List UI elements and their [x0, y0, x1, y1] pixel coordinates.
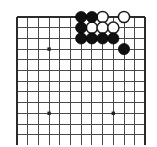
white-stone[interactable]: [118, 11, 129, 22]
black-stone[interactable]: [97, 33, 108, 44]
star-point: [47, 112, 50, 115]
black-stone[interactable]: [76, 22, 87, 33]
black-stone[interactable]: [76, 33, 87, 44]
go-board-diagram: [0, 0, 157, 147]
white-stone[interactable]: [97, 11, 108, 22]
black-stone[interactable]: [86, 11, 97, 22]
white-stone[interactable]: [86, 22, 97, 33]
black-stone[interactable]: [108, 33, 119, 44]
star-point: [47, 47, 50, 50]
black-stone[interactable]: [76, 11, 87, 22]
go-board-svg[interactable]: [0, 0, 157, 147]
black-stone[interactable]: [86, 33, 97, 44]
black-stone[interactable]: [118, 44, 129, 55]
star-point: [112, 112, 115, 115]
white-stone[interactable]: [97, 22, 108, 33]
white-stone[interactable]: [108, 22, 119, 33]
